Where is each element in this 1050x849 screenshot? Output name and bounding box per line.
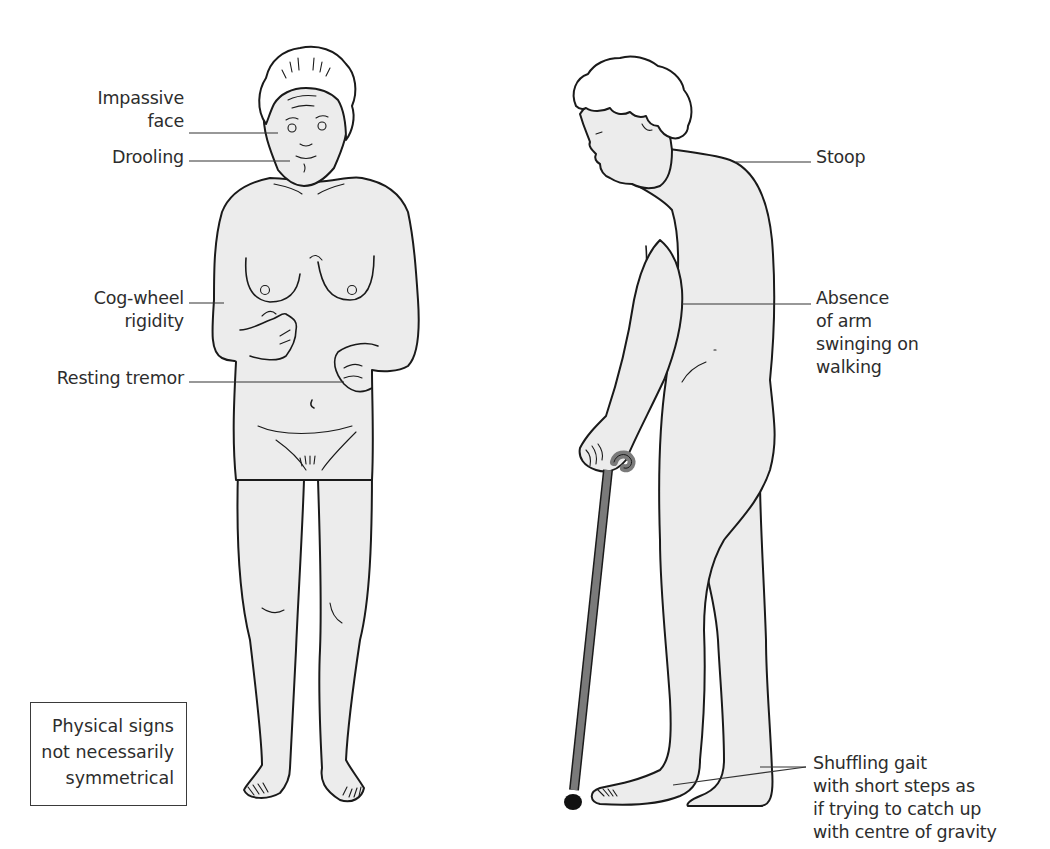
front-left-leg	[238, 470, 305, 798]
label-line: Drooling	[112, 146, 184, 169]
parkinsonism-diagram: .skin { fill: #ececec; stroke: #1a1a1a; …	[0, 0, 1050, 849]
cane-tip	[564, 794, 582, 810]
label-stoop: Stoop	[816, 146, 866, 169]
front-right-leg	[318, 470, 372, 801]
label-line: Cog-wheel	[94, 287, 184, 310]
label-line: Stoop	[816, 146, 866, 169]
label-line: with centre of gravity	[813, 821, 997, 844]
front-figure	[212, 47, 418, 801]
label-line: of arm	[816, 310, 919, 333]
label-line: Resting tremor	[57, 367, 184, 390]
label-absence-arm-swing: Absence of arm swinging on walking	[816, 287, 919, 379]
label-cog-wheel-rigidity: Cog-wheel rigidity	[94, 287, 184, 333]
label-impassive-face: Impassive face	[98, 87, 184, 133]
label-drooling: Drooling	[112, 146, 184, 169]
label-line: rigidity	[94, 310, 184, 333]
note-box: Physical signs not necessarily symmetric…	[30, 702, 187, 806]
label-line: Impassive	[98, 87, 184, 110]
note-text: Physical signs not necessarily symmetric…	[41, 713, 174, 791]
label-resting-tremor: Resting tremor	[57, 367, 184, 390]
label-line: walking	[816, 356, 919, 379]
label-shuffling-gait: Shuffling gait with short steps as if tr…	[813, 752, 997, 844]
label-line: if trying to catch up	[813, 798, 997, 821]
front-torso	[212, 177, 418, 480]
side-figure	[564, 56, 775, 810]
label-line: Absence	[816, 287, 919, 310]
label-line: swinging on	[816, 333, 919, 356]
label-line: Shuffling gait	[813, 752, 997, 775]
label-line: face	[98, 110, 184, 133]
label-line: with short steps as	[813, 775, 997, 798]
